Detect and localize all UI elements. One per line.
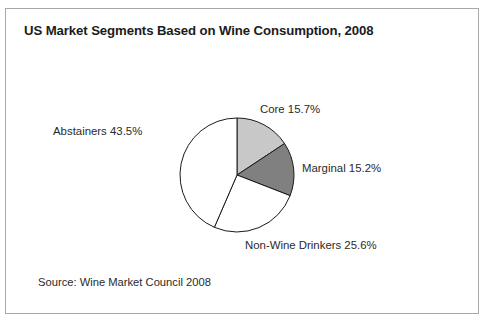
pie-label-abstainers: Abstainers 43.5%: [53, 125, 142, 137]
pie-label-non-wine-drinkers: Non-Wine Drinkers 25.6%: [245, 239, 377, 251]
source-note: Source: Wine Market Council 2008: [38, 276, 211, 288]
chart-frame: US Market Segments Based on Wine Consump…: [5, 8, 479, 314]
pie-label-marginal: Marginal 15.2%: [302, 162, 381, 174]
pie-chart-plot-area: Core 15.7% Marginal 15.2% Non-Wine Drink…: [6, 9, 480, 315]
pie-chart-svg: [172, 110, 302, 240]
pie-label-core: Core 15.7%: [260, 103, 320, 115]
